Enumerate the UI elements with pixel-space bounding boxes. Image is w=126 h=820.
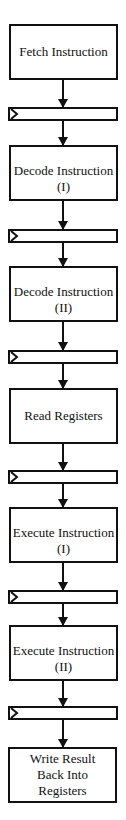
clock-edge-icon bbox=[10, 472, 20, 482]
stage-sublabel: (II) bbox=[55, 659, 72, 675]
pipeline-register-1 bbox=[8, 107, 118, 121]
clock-edge-icon bbox=[10, 592, 20, 602]
clock-edge-icon bbox=[10, 231, 20, 241]
stage-decode-instruction-2: Decode Instruction (II) bbox=[9, 266, 118, 322]
stage-decode-instruction-1: Decode Instruction (I) bbox=[9, 145, 118, 201]
stage-label: Execute Instruction bbox=[13, 643, 114, 659]
stage-label-line3: Registers bbox=[38, 783, 86, 799]
clock-edge-icon bbox=[10, 352, 20, 362]
stage-label: Execute Instruction bbox=[13, 525, 114, 541]
pipeline-register-2 bbox=[8, 229, 118, 243]
arrow-down-icon bbox=[62, 201, 64, 229]
stage-execute-instruction-1: Execute Instruction (I) bbox=[9, 507, 118, 563]
stage-label: Decode Instruction bbox=[14, 163, 113, 179]
pipeline-register-4 bbox=[8, 470, 118, 484]
arrow-down-icon bbox=[62, 444, 64, 470]
arrow-down-icon bbox=[62, 563, 64, 590]
arrow-down-icon bbox=[62, 604, 64, 625]
pipeline-register-5 bbox=[8, 590, 118, 604]
stage-label: Write Result bbox=[30, 751, 96, 767]
clock-edge-icon bbox=[10, 109, 20, 119]
stage-label: Fetch Instruction bbox=[19, 44, 107, 60]
arrow-down-icon bbox=[62, 243, 64, 266]
arrow-down-icon bbox=[62, 121, 64, 145]
arrow-down-icon bbox=[62, 80, 64, 107]
arrow-down-icon bbox=[62, 322, 64, 350]
stage-fetch-instruction: Fetch Instruction bbox=[9, 24, 118, 80]
stage-label-line2: Back Into bbox=[37, 767, 88, 783]
arrow-down-icon bbox=[62, 364, 64, 388]
stage-execute-instruction-2: Execute Instruction (II) bbox=[9, 625, 118, 681]
stage-label: Read Registers bbox=[24, 408, 102, 424]
stage-label: Decode Instruction bbox=[14, 284, 113, 300]
stage-sublabel: (I) bbox=[57, 179, 70, 195]
stage-write-back: Write Result Back Into Registers bbox=[8, 747, 117, 803]
pipeline-register-6 bbox=[8, 706, 118, 720]
clock-edge-icon bbox=[10, 708, 20, 718]
arrow-down-icon bbox=[62, 720, 64, 747]
stage-read-registers: Read Registers bbox=[9, 388, 118, 444]
arrow-down-icon bbox=[62, 484, 64, 507]
stage-sublabel: (I) bbox=[57, 541, 70, 557]
pipeline-register-3 bbox=[8, 350, 118, 364]
arrow-down-icon bbox=[62, 681, 64, 706]
stage-sublabel: (II) bbox=[55, 300, 72, 316]
